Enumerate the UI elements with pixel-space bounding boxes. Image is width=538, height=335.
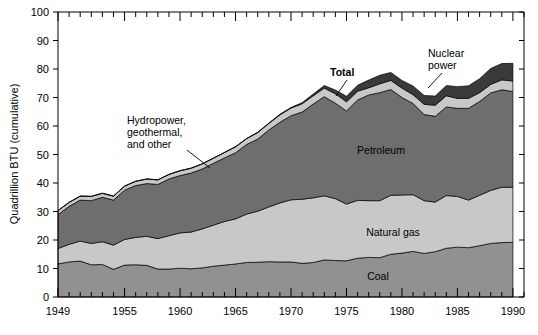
- y-axis-label: Quadrillion BTU (cumulative): [8, 84, 20, 225]
- area-bands: [58, 63, 513, 297]
- hydro-label-line1: Hydropower,: [127, 114, 186, 126]
- y-tick-label: 100: [31, 6, 49, 18]
- petroleum-label: Petroleum: [357, 144, 405, 156]
- x-tick-labels: 194919551960196519701975198019851990: [46, 305, 525, 317]
- nuclear-leader-line: [428, 73, 442, 88]
- y-tick-labels: 0102030405060708090100: [31, 6, 49, 303]
- stacked-area-chart: 0102030405060708090100 19491955196019651…: [0, 0, 538, 335]
- x-tick-label: 1980: [390, 305, 414, 317]
- hydro-label-line3: and other: [127, 138, 172, 150]
- y-tick-label: 90: [37, 35, 49, 47]
- x-tick-label: 1960: [168, 305, 192, 317]
- x-tick-label: 1955: [112, 305, 136, 317]
- y-tick-label: 50: [37, 149, 49, 161]
- x-tick-label: 1970: [279, 305, 303, 317]
- x-tick-label: 1975: [334, 305, 358, 317]
- hydro-annotation: Hydropower, geothermal, and other: [127, 114, 210, 168]
- y-tick-label: 10: [37, 263, 49, 275]
- x-tick-label: 1965: [223, 305, 247, 317]
- y-tick-label: 80: [37, 63, 49, 75]
- y-tick-label: 60: [37, 120, 49, 132]
- nuclear-annotation: Nuclear power: [428, 47, 465, 88]
- nuclear-label-line1: Nuclear: [428, 47, 465, 59]
- y-tick-label: 30: [37, 206, 49, 218]
- hydro-label-line2: geothermal,: [127, 126, 182, 138]
- natural-gas-label: Natural gas: [366, 226, 420, 238]
- y-tick-label: 0: [43, 291, 49, 303]
- x-tick-label: 1985: [445, 305, 469, 317]
- y-tick-label: 70: [37, 92, 49, 104]
- coal-label: Coal: [367, 270, 389, 282]
- y-tick-label: 40: [37, 177, 49, 189]
- x-tick-label: 1990: [501, 305, 525, 317]
- y-tick-label: 20: [37, 234, 49, 246]
- total-label: Total: [330, 66, 354, 78]
- chart-figure: 0102030405060708090100 19491955196019651…: [0, 0, 538, 335]
- x-tick-label: 1949: [46, 305, 70, 317]
- nuclear-label-line2: power: [428, 59, 457, 71]
